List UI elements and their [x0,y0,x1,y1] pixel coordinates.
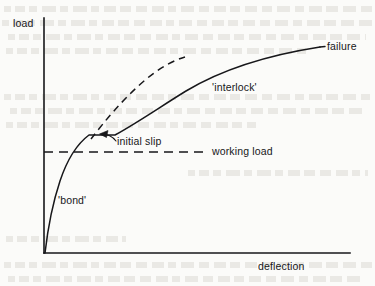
bond-label: 'bond' [58,195,86,206]
initial-slip-label: initial slip [117,136,161,147]
plot-canvas [0,0,375,286]
x-axis-label: deflection [258,261,304,272]
projected-no-slip-curve [91,57,185,139]
failure-label: failure [327,41,357,52]
load-deflection-curve [45,47,320,253]
working-load-label: working load [212,146,273,157]
failure-leader [320,47,325,48]
figure-root: load deflection failure 'interlock' 'bon… [0,0,375,286]
interlock-label: 'interlock' [212,82,257,93]
y-axis-label: load [13,18,33,29]
